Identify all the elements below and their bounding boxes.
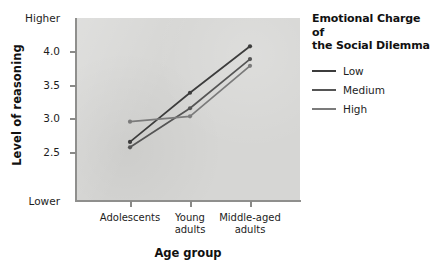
y-axis-line — [75, 18, 77, 201]
legend-title-line2: the Social Dilemma — [312, 39, 430, 52]
legend-swatch-low — [312, 70, 336, 73]
y-tick-mark-3.5 — [70, 85, 76, 87]
y-tick-label-3.5: 3.5 — [0, 80, 60, 91]
legend-label-low: Low — [343, 65, 364, 77]
legend-swatch-high — [312, 108, 336, 111]
legend-item-high[interactable]: High — [312, 100, 432, 119]
legend-item-low[interactable]: Low — [312, 62, 432, 81]
x-axis-title: Age group — [76, 246, 300, 260]
x-tick-mark-middle-aged-adults — [250, 201, 252, 207]
y-tick-label-3.0: 3.0 — [0, 113, 60, 124]
legend-label-high: High — [343, 103, 367, 115]
plot-area — [76, 18, 300, 200]
x-tick-label-young-adults-line1: Young — [175, 212, 205, 223]
y-tick-mark-3.0 — [70, 118, 76, 120]
x-tick-label-young-adults-line2: adults — [175, 224, 206, 235]
legend-title-line1: Emotional Charge of — [312, 12, 420, 39]
x-tick-mark-adolescents — [130, 201, 132, 207]
y-tick-mark-2.5 — [70, 152, 76, 154]
x-tick-label-middle-aged-adults-line2: adults — [235, 224, 266, 235]
y-axis-lower-bound-label: Lower — [0, 196, 60, 207]
x-axis-line — [75, 200, 301, 202]
x-tick-mark-young-adults — [190, 201, 192, 207]
legend-label-medium: Medium — [343, 84, 385, 96]
y-tick-label-2.5: 2.5 — [0, 147, 60, 158]
x-tick-label-middle-aged-adults-line1: Middle-aged — [219, 212, 281, 223]
chart-figure: Higher 4.0 3.5 3.0 2.5 Lower Adolescents… — [0, 0, 432, 272]
legend-title: Emotional Charge of the Social Dilemma — [312, 12, 432, 53]
y-axis-title: Level of reasoning — [10, 40, 24, 170]
y-tick-mark-4.0 — [70, 51, 76, 53]
legend-swatch-medium — [312, 89, 336, 92]
legend-item-medium[interactable]: Medium — [312, 81, 432, 100]
x-tick-label-middle-aged-adults: Middle-aged adults — [207, 212, 293, 235]
y-tick-label-4.0: 4.0 — [0, 46, 60, 57]
y-axis-upper-bound-label: Higher — [0, 13, 60, 24]
legend: Emotional Charge of the Social Dilemma L… — [312, 12, 432, 119]
legend-items: LowMediumHigh — [312, 62, 432, 119]
